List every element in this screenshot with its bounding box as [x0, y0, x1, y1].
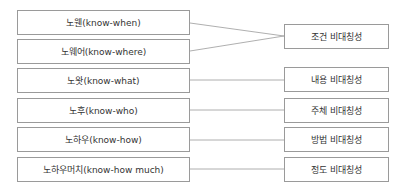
- box-label: 노웬(know-when): [66, 16, 140, 29]
- right-box-condition-asymmetry: 조건 비대칭성: [284, 24, 389, 49]
- box-label: 노하우(know-how): [65, 133, 142, 146]
- right-box-method-asymmetry: 방법 비대칭성: [284, 127, 389, 152]
- left-box-know-when: 노웬(know-when): [17, 10, 190, 35]
- box-label: 조건 비대칭성: [311, 30, 362, 43]
- left-box-know-how-much: 노하우머치(know-how much): [17, 157, 190, 182]
- left-box-know-what: 노왓(know-what): [17, 68, 190, 93]
- box-label: 정도 비대칭성: [311, 163, 362, 176]
- box-label: 내용 비대칭성: [311, 73, 362, 86]
- box-label: 노왓(know-what): [67, 74, 139, 87]
- left-box-know-where: 노웨어(know-where): [17, 39, 190, 64]
- right-box-content-asymmetry: 내용 비대칭성: [284, 67, 389, 92]
- right-box-subject-asymmetry: 주체 비대칭성: [284, 98, 389, 123]
- left-box-know-who: 노후(know-who): [17, 98, 190, 123]
- box-label: 방법 비대칭성: [311, 133, 362, 146]
- box-label: 노웨어(know-where): [61, 45, 147, 58]
- right-box-degree-asymmetry: 정도 비대칭성: [284, 157, 389, 182]
- left-box-know-how: 노하우(know-how): [17, 127, 190, 152]
- box-label: 노후(know-who): [69, 104, 138, 117]
- box-label: 노하우머치(know-how much): [43, 163, 164, 176]
- box-label: 주체 비대칭성: [311, 104, 362, 117]
